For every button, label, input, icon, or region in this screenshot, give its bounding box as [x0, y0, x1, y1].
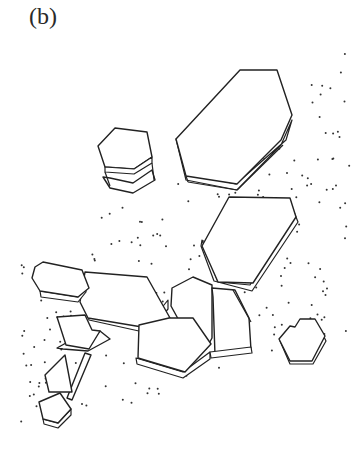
crystal-bottom-left: [39, 353, 91, 428]
crystal-middle-right: [201, 197, 298, 291]
crystal-large-top-right: [176, 70, 292, 190]
crystal-small-stacked: [98, 128, 155, 193]
crystal-figure: [0, 0, 361, 463]
crystal-small-right: [279, 319, 326, 364]
